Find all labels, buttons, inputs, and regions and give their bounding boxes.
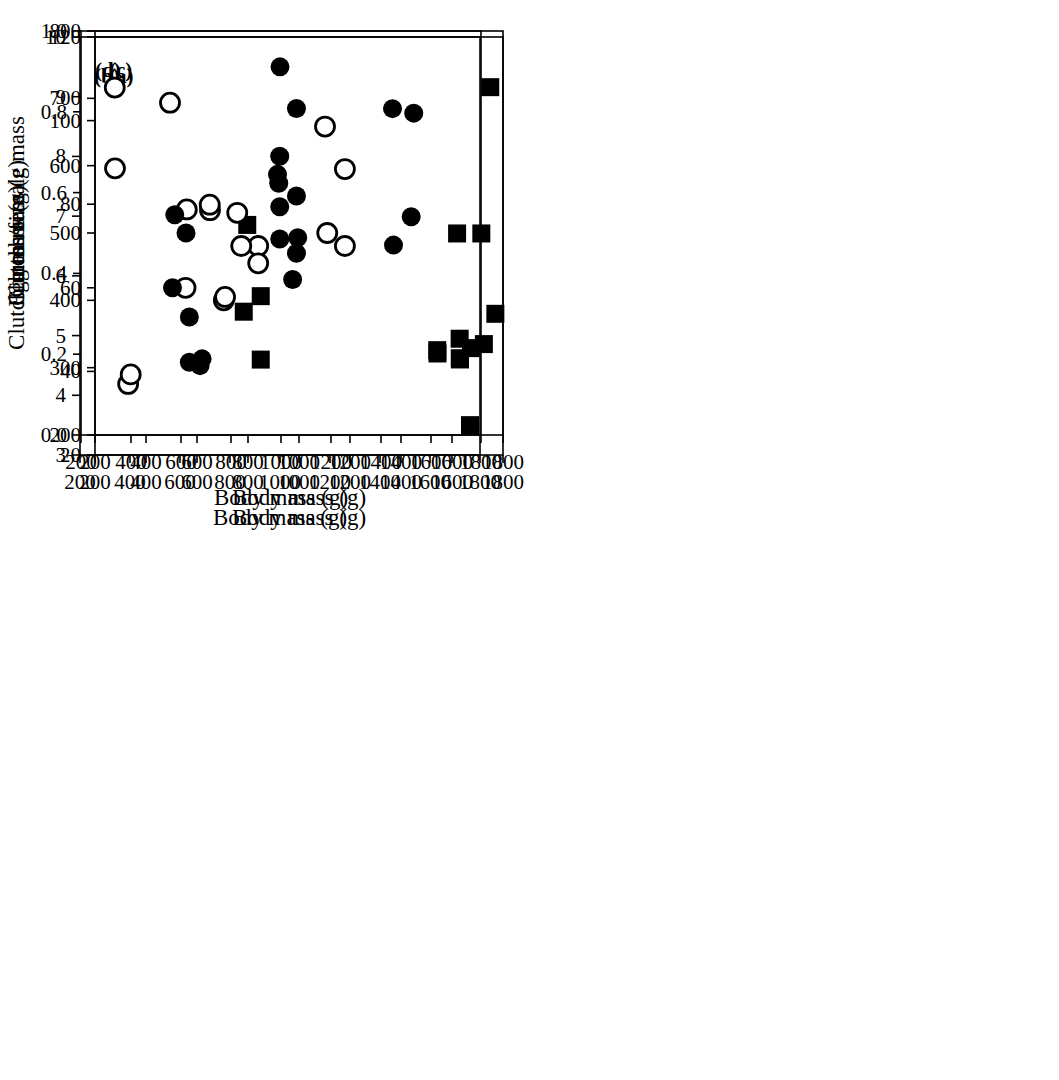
y-tick-label: 0.8: [41, 100, 67, 124]
x-axis-title: Body mass (g): [214, 485, 348, 510]
x-tick-label: 1400: [360, 450, 402, 474]
scatter-point-open-circle: [200, 195, 219, 214]
panel-d-chart: 200400600800100012001400160018000.00.20.…: [0, 0, 530, 540]
scatter-point-square: [462, 339, 480, 357]
y-tick-label: 0.6: [41, 181, 67, 205]
y-tick-label: 0.2: [41, 342, 67, 366]
y-tick-label: 0.4: [41, 261, 68, 285]
scatter-point-filled-circle: [270, 230, 289, 249]
x-tick-label: 1600: [410, 450, 452, 474]
x-tick-label: 200: [65, 450, 97, 474]
scatter-point-filled-circle: [270, 147, 289, 166]
y-tick-label: 0.0: [41, 423, 67, 447]
scatter-point-open-circle: [228, 203, 247, 222]
scatter-point-open-circle: [105, 78, 124, 97]
x-tick-label: 400: [115, 450, 147, 474]
scatter-point-open-circle: [318, 224, 337, 243]
scatter-point-filled-circle: [165, 205, 184, 224]
x-tick-label: 600: [165, 450, 197, 474]
scatter-point-filled-circle: [270, 197, 289, 216]
y-axis-title: Clutch mass/female mass: [4, 116, 29, 350]
scatter-point-filled-circle: [177, 224, 196, 243]
four-panel-scatter-figure: 2004006008001000120014001600180020406080…: [0, 0, 1059, 1080]
y-tick-label: 1.0: [41, 19, 67, 43]
scatter-point-square: [428, 341, 446, 359]
x-tick-label: 800: [215, 450, 247, 474]
panel-d: 200400600800100012001400160018000.00.20.…: [0, 0, 530, 540]
x-tick-label: 1200: [310, 450, 352, 474]
x-tick-label: 1800: [460, 450, 502, 474]
x-tick-label: 1000: [260, 450, 302, 474]
scatter-point-filled-circle: [384, 236, 403, 255]
